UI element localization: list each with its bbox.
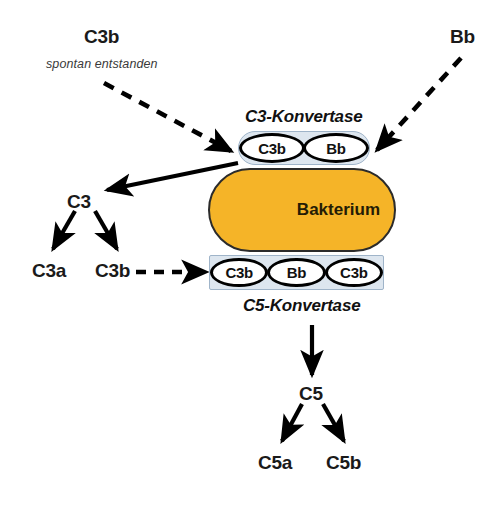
- edge-c3-to-c3b: [95, 211, 117, 249]
- label-c5-konvertase: C5-Konvertase: [243, 297, 360, 314]
- label-c3b-top: C3b: [84, 27, 119, 46]
- label-c3b-cleaved: C3b: [95, 261, 130, 280]
- edge-c3b-to-c3-konvertase: [104, 83, 231, 151]
- label-c3: C3: [67, 192, 91, 211]
- subunit-label: Bb: [287, 264, 306, 281]
- c3-konvertase-complex: C3b Bb: [238, 131, 370, 165]
- label-c5a: C5a: [258, 453, 292, 472]
- edge-layer: C3-Konvertase : dashed --> C3-Konvertase…: [0, 0, 501, 508]
- c5-konvertase-complex: C3b Bb C3b: [209, 255, 384, 290]
- subunit-label: C3b: [225, 264, 252, 281]
- subunit-label: C3b: [340, 264, 367, 281]
- complement-pathway-diagram: C3-Konvertase : dashed --> C3-Konvertase…: [0, 0, 501, 508]
- label-c3b-top-note: spontan entstanden: [46, 58, 158, 71]
- edge-c5-to-c5b: [323, 404, 344, 441]
- bacterium-label: Bakterium: [297, 200, 380, 220]
- edge-c3-to-c3a: [53, 211, 75, 249]
- label-c5: C5: [299, 384, 323, 403]
- subunit-label: C3b: [258, 140, 285, 157]
- label-bb-top: Bb: [450, 27, 475, 46]
- label-c3-konvertase: C3-Konvertase: [245, 108, 362, 125]
- bacterium-shape: Bakterium: [208, 168, 396, 252]
- subunit-oval-c3b: C3b: [239, 133, 305, 163]
- label-c5b: C5b: [326, 453, 361, 472]
- subunit-oval-bb: Bb: [267, 258, 325, 287]
- subunit-oval-bb: Bb: [303, 133, 369, 163]
- edge-bb-to-c3-konvertase: [377, 58, 461, 150]
- label-c3a: C3a: [32, 261, 66, 280]
- subunit-label: Bb: [326, 140, 345, 157]
- subunit-oval-c3b-right: C3b: [325, 258, 383, 287]
- edge-c5-to-c5a: [282, 404, 302, 441]
- subunit-oval-c3b-left: C3b: [210, 258, 268, 287]
